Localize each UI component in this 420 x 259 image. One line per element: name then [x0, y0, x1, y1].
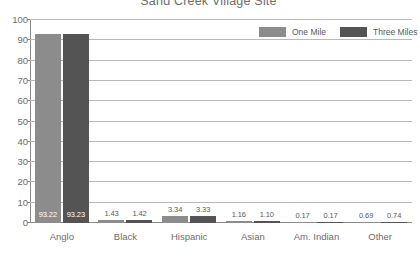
bar[interactable]	[317, 222, 343, 224]
y-axis-tick-label: 70	[2, 74, 28, 85]
x-axis-category-label: Other	[348, 231, 412, 242]
bar[interactable]	[35, 34, 61, 223]
legend-swatch	[340, 27, 367, 37]
y-axis-tick-label: 80	[2, 54, 28, 65]
bar[interactable]	[190, 216, 216, 223]
x-axis-category-label: Anglo	[30, 231, 94, 242]
chart-legend: One MileThree Miles	[256, 24, 420, 39]
bar-group: 0.170.17	[285, 19, 349, 223]
bar-value-label: 0.17	[313, 211, 347, 220]
bar-group: 1.161.10	[221, 19, 285, 223]
x-axis-category-label: Asian	[221, 231, 285, 242]
bar-group: 93.2293.23	[30, 19, 94, 223]
y-axis-tick-label: 60	[2, 95, 28, 106]
y-axis-tick-label: 20	[2, 176, 28, 187]
y-axis-tick-label: 10	[2, 196, 28, 207]
x-axis-labels: AngloBlackHispanicAsianAm. IndianOther	[30, 231, 412, 247]
bar[interactable]	[162, 216, 188, 223]
y-axis-tick-label: 90	[2, 34, 28, 45]
y-axis-tick-label: 40	[2, 135, 28, 146]
y-axis-tick-label: 50	[2, 115, 28, 126]
legend-swatch	[259, 27, 286, 37]
bars-layer: 93.2293.231.431.423.343.331.161.100.170.…	[30, 19, 412, 223]
y-axis: 0102030405060708090100	[0, 0, 28, 259]
bar-value-label: 3.33	[186, 205, 220, 214]
legend-item[interactable]: One Mile	[259, 27, 326, 37]
legend-item[interactable]: Three Miles	[340, 27, 417, 37]
bar-value-label: 0.74	[377, 211, 411, 220]
chart-title: Sand Creek Village Site	[0, 0, 417, 8]
bar[interactable]	[254, 221, 280, 223]
bar[interactable]	[63, 34, 89, 223]
bar-value-label: 93.23	[59, 210, 93, 219]
bar-value-label: 1.42	[122, 209, 156, 218]
bar[interactable]	[353, 222, 379, 224]
bar-value-label: 1.10	[250, 210, 284, 219]
y-axis-tick-label: 100	[2, 14, 28, 25]
x-axis-category-label: Hispanic	[157, 231, 221, 242]
bar-group: 1.431.42	[94, 19, 158, 223]
bar[interactable]	[289, 222, 315, 224]
x-axis-category-label: Am. Indian	[285, 231, 349, 242]
bar-group: 0.690.74	[348, 19, 412, 223]
y-axis-tick-label: 0	[2, 217, 28, 228]
legend-label: One Mile	[292, 27, 326, 37]
bar-group: 3.343.33	[157, 19, 221, 223]
x-axis-category-label: Black	[94, 231, 158, 242]
bar[interactable]	[98, 220, 124, 223]
legend-label: Three Miles	[373, 27, 417, 37]
y-axis-tick-label: 30	[2, 156, 28, 167]
bar[interactable]	[226, 221, 252, 223]
bar[interactable]	[381, 222, 407, 224]
bar[interactable]	[126, 220, 152, 223]
